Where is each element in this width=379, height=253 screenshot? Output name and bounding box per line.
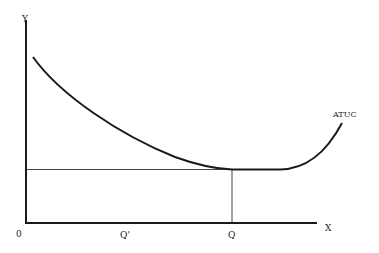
atuc-label: ATUC: [332, 110, 357, 119]
q-label: Q: [228, 230, 235, 240]
y-axis-label: Y: [21, 14, 29, 24]
origin-label: 0: [16, 229, 22, 239]
x-axis-label: X: [325, 223, 332, 233]
diagram-canvas: Y X 0 Q' Q ATUC: [0, 0, 379, 253]
atuc-curve: [33, 57, 342, 170]
q-prime-label: Q': [120, 230, 130, 240]
